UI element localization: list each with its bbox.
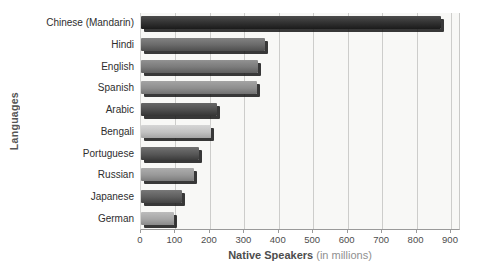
- x-tick-labels-row: 0100200300400500600700800900: [140, 234, 460, 246]
- tick-mark-600: [347, 230, 348, 233]
- bar-spanish: [141, 81, 257, 94]
- category-label-russian: Russian: [0, 170, 134, 180]
- gridline-900: [451, 13, 452, 229]
- tick-label-400: 400: [270, 234, 286, 245]
- bar-german: [141, 212, 174, 225]
- tick-mark-900: [450, 230, 451, 233]
- tick-mark-800: [416, 230, 417, 233]
- tick-mark-0: [140, 230, 141, 233]
- bar-chinese-mandarin: [141, 16, 441, 29]
- x-axis-title: Native Speakers (in millions): [140, 249, 460, 261]
- category-label-bengali: Bengali: [0, 127, 134, 137]
- tick-mark-400: [278, 230, 279, 233]
- gridline-500: [313, 13, 314, 229]
- bar-portuguese: [141, 147, 199, 160]
- bar-hindi: [141, 38, 265, 51]
- category-label-german: German: [0, 214, 134, 224]
- bar-english: [141, 60, 258, 73]
- tick-mark-500: [312, 230, 313, 233]
- tick-label-600: 600: [339, 234, 355, 245]
- x-axis-title-main: Native Speakers: [228, 249, 313, 261]
- bar-bengali: [141, 125, 211, 138]
- tick-label-900: 900: [442, 234, 458, 245]
- gridline-700: [382, 13, 383, 229]
- category-labels-column: Chinese (Mandarin)HindiEnglishSpanishAra…: [0, 13, 134, 230]
- bar-arabic: [141, 103, 217, 116]
- tick-label-500: 500: [304, 234, 320, 245]
- tick-mark-100: [174, 230, 175, 233]
- tick-mark-700: [381, 230, 382, 233]
- tick-mark-200: [209, 230, 210, 233]
- tick-label-0: 0: [137, 234, 142, 245]
- native-speakers-bar-chart: Languages Chinese (Mandarin)HindiEnglish…: [0, 0, 477, 273]
- category-label-arabic: Arabic: [0, 105, 134, 115]
- category-label-english: English: [0, 62, 134, 72]
- bar-russian: [141, 168, 194, 181]
- category-label-portuguese: Portuguese: [0, 149, 134, 159]
- tick-label-100: 100: [167, 234, 183, 245]
- category-label-hindi: Hindi: [0, 40, 134, 50]
- tick-label-300: 300: [235, 234, 251, 245]
- category-label-spanish: Spanish: [0, 83, 134, 93]
- x-axis-title-unit: (in millions): [316, 249, 372, 261]
- tick-label-200: 200: [201, 234, 217, 245]
- gridline-400: [279, 13, 280, 229]
- plot-area: [140, 13, 460, 230]
- bar-japanese: [141, 190, 182, 203]
- gridline-800: [417, 13, 418, 229]
- category-label-japanese: Japanese: [0, 192, 134, 202]
- tick-mark-300: [243, 230, 244, 233]
- category-label-chinese-mandarin: Chinese (Mandarin): [0, 18, 134, 28]
- gridline-600: [348, 13, 349, 229]
- tick-label-700: 700: [373, 234, 389, 245]
- tick-label-800: 800: [408, 234, 424, 245]
